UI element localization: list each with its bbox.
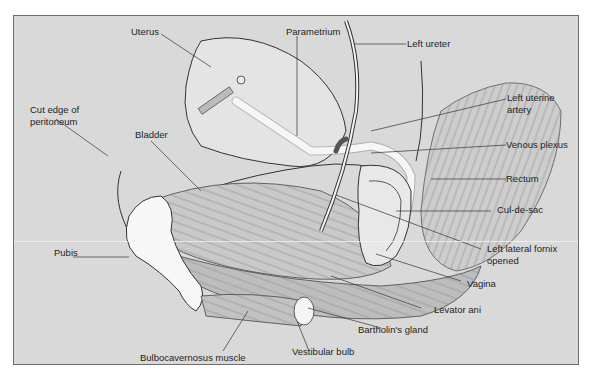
label-left-uterine-artery-line1: Left uterine bbox=[507, 92, 555, 104]
label-levator-ani: Levator ani bbox=[434, 304, 481, 316]
label-left-ureter: Left ureter bbox=[407, 38, 450, 50]
label-parametrium: Parametrium bbox=[286, 26, 340, 38]
diagram-frame: Uterus Parametrium Left ureter Cut edge … bbox=[13, 15, 579, 365]
label-bartholins-gland: Bartholin's gland bbox=[358, 324, 428, 336]
label-vestibular-bulb: Vestibular bulb bbox=[292, 346, 354, 358]
label-pubis: Pubis bbox=[54, 247, 78, 259]
label-vagina: Vagina bbox=[467, 278, 496, 290]
label-cut-edge-line1: Cut edge of bbox=[30, 104, 79, 116]
label-venous-plexus: Venous plexus bbox=[506, 139, 568, 151]
label-left-lateral-fornix-line2: opened bbox=[487, 255, 519, 267]
label-left-uterine-artery-line2: artery bbox=[507, 104, 531, 116]
bulbocavernosus-muscle bbox=[201, 294, 306, 326]
cervix-vagina bbox=[358, 165, 411, 265]
label-left-lateral-fornix-line1: Left lateral fornix bbox=[487, 243, 557, 255]
label-bladder: Bladder bbox=[135, 129, 168, 141]
label-cut-edge-line2: peritoneum bbox=[30, 116, 78, 128]
label-uterus: Uterus bbox=[131, 26, 159, 38]
label-rectum: Rectum bbox=[506, 173, 539, 185]
label-bulbocavernosus-muscle: Bulbocavernosus muscle bbox=[140, 352, 246, 364]
pelvis-illustration bbox=[14, 16, 579, 365]
label-cul-de-sac: Cul-de-sac bbox=[497, 204, 543, 216]
scan-artifact bbox=[13, 241, 579, 242]
bartholins-gland bbox=[294, 297, 314, 325]
